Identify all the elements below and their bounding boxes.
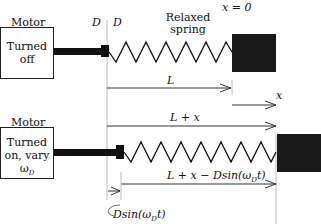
displacement-label: Dsin(ωDt) [113,209,166,224]
x-label: x [276,90,282,102]
mass-block-top [232,34,276,72]
stretch-label: L + x − Dsin(ωDt) [167,170,266,186]
motor-state-top: Turned off [4,40,50,66]
origin-label: x = 0 [222,2,251,14]
spring-relaxed [109,42,232,62]
mass-block-bottom [277,134,321,172]
shaft-end-top [101,45,109,57]
motor-box-top: Turned off [0,27,54,79]
shaft-end-bottom [116,145,124,159]
d-label-right: D [113,17,122,29]
spring-stretched [124,142,276,162]
length-label: L [167,75,174,87]
omega-d: ωD [1,162,53,180]
motor-box-bottom: Turned on, vary ωD [0,127,54,179]
motor-shaft-bottom [53,149,118,156]
motor-shaft-top [53,48,103,55]
length-plus-x-label: L + x [170,112,200,124]
spring-label: Relaxed spring [158,12,218,36]
d-label-left: D [92,17,101,29]
